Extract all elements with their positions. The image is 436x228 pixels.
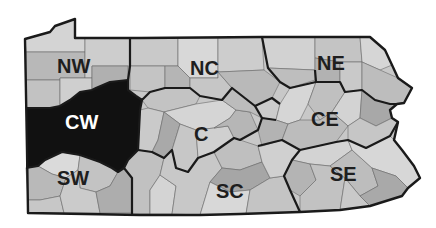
region-label-sw: SW [57, 167, 89, 189]
region-label-sc: SC [216, 180, 244, 202]
region-label-cw: CW [65, 111, 98, 133]
region-label-ce: CE [311, 108, 339, 130]
region-label-nc: NC [190, 57, 219, 79]
region-label-c: C [194, 123, 208, 145]
pennsylvania-region-map: NW NC NE CW C CE SW SC SE [0, 0, 436, 228]
region-label-se: SE [330, 163, 357, 185]
region-label-nw: NW [57, 55, 90, 77]
region-label-ne: NE [317, 52, 345, 74]
